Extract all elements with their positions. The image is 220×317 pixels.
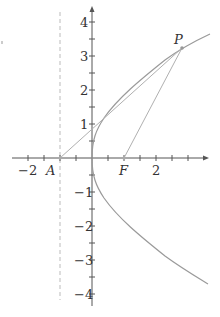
y-tick-label: 1 <box>80 117 88 132</box>
x-tick-label: −2 <box>18 163 37 178</box>
label-A: A <box>45 163 55 178</box>
x-axis <box>12 155 209 161</box>
y-tick-label: −2 <box>74 219 93 234</box>
segment-AP <box>60 48 182 158</box>
point-A <box>58 156 61 159</box>
x-tick-label: 2 <box>152 163 160 178</box>
edge-mark <box>1 41 3 44</box>
y-tick-label: 3 <box>80 49 88 64</box>
y-tick-label: 2 <box>80 83 88 98</box>
label-P: P <box>173 32 183 47</box>
y-tick-label: 4 <box>80 15 88 30</box>
y-tick-label: −3 <box>74 253 93 268</box>
label-F: F <box>118 163 129 178</box>
segment-FP <box>124 48 182 158</box>
parabola-curve-lower <box>92 158 208 284</box>
point-F <box>122 156 125 159</box>
y-tick-label: −4 <box>74 287 93 302</box>
parabola-diagram: P A F −2 2 4 3 2 1 −1 −2 −3 −4 <box>0 0 220 317</box>
y-tick-label: −1 <box>74 185 93 200</box>
parabola-curve <box>92 34 210 158</box>
